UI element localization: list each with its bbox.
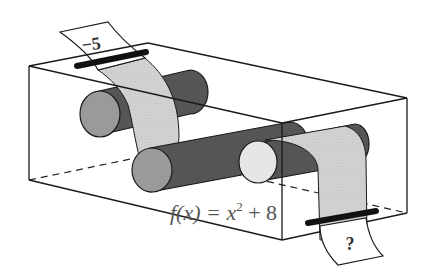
function-label: f(x) = x2 + 8 (170, 199, 277, 225)
function-suffix: + 8 (243, 200, 277, 225)
output-paper: ? (320, 218, 383, 265)
function-machine-diagram: −5 ? f(x) = x2 + 8 (0, 0, 438, 271)
roller-right-end (239, 141, 277, 183)
output-value: ? (346, 234, 355, 254)
function-prefix: f(x) = x (170, 200, 236, 225)
